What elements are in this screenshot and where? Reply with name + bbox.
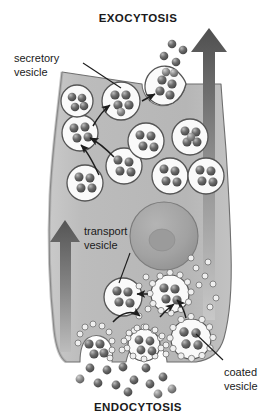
secretory-vesicle-label-line2: vesicle [14,66,48,78]
secretory-vesicle [152,158,188,194]
external-granules [76,363,177,399]
exocytosis-title: EXOCYTOSIS [99,12,178,24]
secretory-vesicle [128,123,164,159]
transport-vesicle-label-line1: transport [84,225,127,237]
secretory-vesicle [61,85,93,117]
secretory-vesicle [188,158,224,194]
secretory-vesicle [172,119,208,155]
secretory-vesicle [62,115,98,151]
diagram-svg: EXOCYTOSIS ENDOCYTOSIS secretory vesicle… [0,0,276,418]
transport-vesicle-label-line2: vesicle [84,239,118,251]
nucleus-circle [130,202,198,270]
figure-canvas: EXOCYTOSIS ENDOCYTOSIS secretory vesicle… [0,0,276,418]
endocytosis-title: ENDOCYTOSIS [94,401,182,413]
transport-vesicle [104,278,142,316]
coated-vesicle-label-line1: coated [224,366,257,378]
nucleolus-circle [149,229,175,251]
coated-vesicle-label-line2: vesicle [224,380,258,392]
secretory-vesicle-label-line1: secretory [14,52,60,64]
